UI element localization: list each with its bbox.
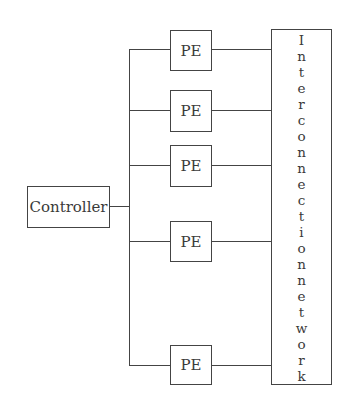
pe5-right-connector <box>211 365 272 366</box>
pe-box-4: PE <box>170 221 212 262</box>
letter: n <box>297 48 306 64</box>
letter: i <box>299 224 303 240</box>
pe-box-3: PE <box>170 145 212 187</box>
letter: t <box>299 64 304 80</box>
pe4-left-connector <box>129 241 170 242</box>
pe3-right-connector <box>211 165 272 166</box>
pe2-right-connector <box>211 110 272 111</box>
letter: o <box>297 336 305 352</box>
letter: c <box>298 192 306 208</box>
pe-label: PE <box>180 102 201 120</box>
letter: o <box>297 128 305 144</box>
letter: c <box>298 112 306 128</box>
pe5-left-connector <box>129 365 170 366</box>
letter: I <box>299 32 304 48</box>
letter: n <box>297 160 306 176</box>
pe-box-1: PE <box>170 30 212 71</box>
controller-connector <box>109 206 130 207</box>
diagram-canvas: Controller PE PE PE PE PE I n t e r c o … <box>0 0 351 401</box>
letter: n <box>297 144 306 160</box>
letter: k <box>297 368 305 384</box>
pe-label: PE <box>180 157 201 175</box>
letter: e <box>298 288 306 304</box>
letter: w <box>296 320 308 336</box>
letter: r <box>298 96 304 112</box>
pe-label: PE <box>180 42 201 60</box>
letter: e <box>298 80 306 96</box>
pe-box-2: PE <box>170 90 212 132</box>
controller-box: Controller <box>27 186 110 228</box>
letter: n <box>297 256 306 272</box>
pe1-left-connector <box>129 49 170 50</box>
letter: t <box>299 208 304 224</box>
pe-label: PE <box>180 356 201 374</box>
interconnection-network-label: I n t e r c o n n e c t i o n n e t w o … <box>271 32 332 384</box>
bus-vertical-line <box>129 49 130 366</box>
pe2-left-connector <box>129 110 170 111</box>
letter: e <box>298 176 306 192</box>
pe3-left-connector <box>129 165 170 166</box>
pe-box-5: PE <box>170 345 212 385</box>
letter: t <box>299 304 304 320</box>
pe1-right-connector <box>211 49 272 50</box>
letter: o <box>297 240 305 256</box>
pe4-right-connector <box>211 241 272 242</box>
letter: n <box>297 272 306 288</box>
pe-label: PE <box>180 233 201 251</box>
letter: r <box>298 352 304 368</box>
controller-label: Controller <box>29 198 107 216</box>
